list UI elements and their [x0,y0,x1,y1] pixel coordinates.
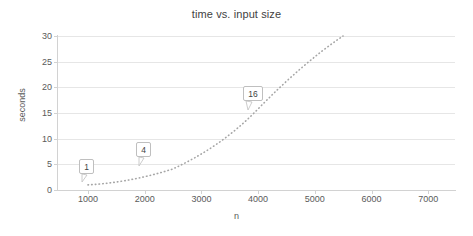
x-tick-label-5000: 5000 [292,195,338,204]
gridline-5 [58,164,455,165]
x-tick-mark-1000 [88,191,89,194]
x-tick-label-3000: 3000 [178,195,224,204]
y-tick-label-25: 25 [20,58,52,67]
data-label-callout-1: 1 [79,159,94,174]
x-tick-mark-5000 [315,191,316,194]
x-tick-mark-6000 [372,191,373,194]
y-tick-label-10: 10 [20,135,52,144]
x-tick-mark-4000 [258,191,259,194]
x-tick-mark-3000 [201,191,202,194]
x-axis-line [57,190,456,191]
plot-area [58,36,455,190]
x-tick-label-6000: 6000 [349,195,395,204]
x-tick-label-1000: 1000 [65,195,111,204]
y-tick-label-5: 5 [20,160,52,169]
gridline-15 [58,113,455,114]
y-tick-label-30: 30 [20,32,52,41]
gridline-10 [58,139,455,140]
x-tick-mark-2000 [145,191,146,194]
gridline-25 [58,62,455,63]
x-tick-label-2000: 2000 [122,195,168,204]
data-label-callout-16: 16 [243,86,263,101]
data-label-value: 4 [141,145,146,155]
x-tick-label-7000: 7000 [405,195,451,204]
gridline-30 [58,36,455,37]
data-label-value: 1 [84,162,89,172]
x-tick-mark-7000 [428,191,429,194]
y-axis-title: seconds [17,75,27,135]
y-tick-label-0: 0 [20,186,52,195]
x-axis-title: n [0,211,473,221]
x-tick-label-4000: 4000 [235,195,281,204]
chart-container: time vs. input size 30 25 20 15 10 5 0 1… [0,0,473,236]
chart-title: time vs. input size [0,8,473,20]
data-label-callout-4: 4 [136,142,151,157]
data-label-value: 16 [248,89,257,99]
y-axis-line [57,35,58,191]
